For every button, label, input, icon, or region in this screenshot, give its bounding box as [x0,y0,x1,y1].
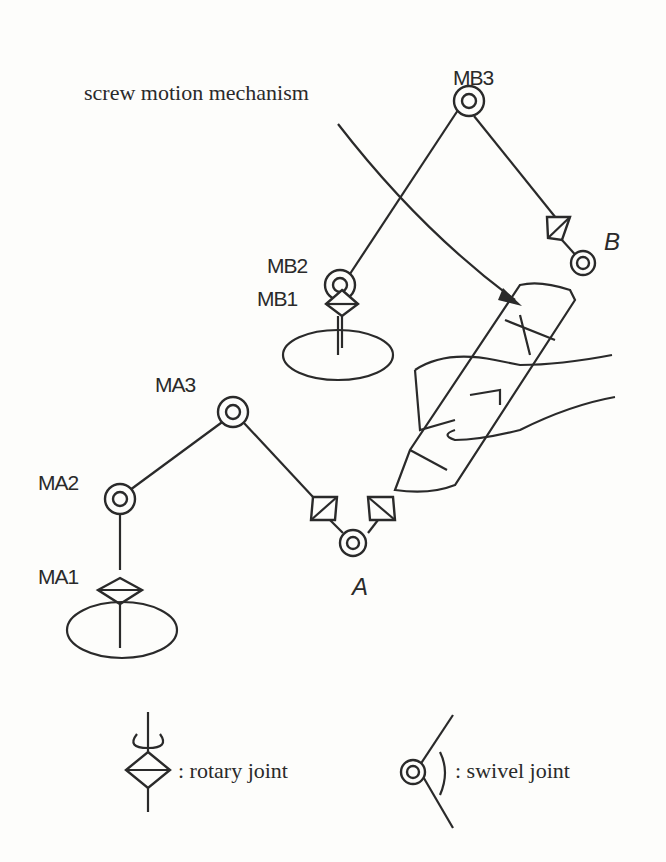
stylus-pen-icon [395,283,575,491]
robot-arm-diagram: screw motion mechanism MB3 MB2 MB1 B MA3… [0,0,666,862]
rotary-joint-b-icon [547,217,570,240]
swivel-joint-b-icon [571,251,595,275]
label-ma1: MA1 [38,565,79,588]
legend-rotary-joint-icon [126,712,170,812]
label-a: A [350,573,368,600]
rotary-joint-a-right-icon [368,497,395,520]
swivel-joint-ma3-icon [218,397,248,427]
label-b: B [604,228,620,255]
label-mb3: MB3 [453,66,494,89]
legend-rotary-label: : rotary joint [178,758,288,783]
label-mb2: MB2 [267,254,308,277]
rotary-joint-ma1-icon [98,578,142,604]
legend-swivel-label: : swivel joint [455,758,570,783]
pointer-arrow [338,124,515,300]
legend-swivel-joint-icon [401,715,453,828]
label-mb1: MB1 [257,287,298,310]
swivel-joint-ma2-icon [105,484,135,514]
label-ma3: MA3 [155,373,196,396]
base-ma-icon [67,602,177,658]
label-ma2: MA2 [38,471,79,494]
title-label: screw motion mechanism [84,80,309,105]
swivel-joint-a-icon [340,530,366,556]
swivel-joint-mb3-icon [454,86,484,116]
rotary-joint-a-left-icon [311,497,337,520]
